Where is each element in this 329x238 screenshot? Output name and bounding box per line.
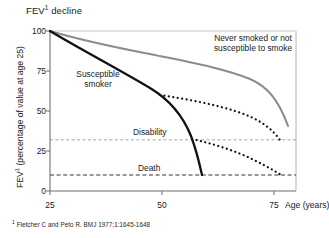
susceptible-smoker-label: Susceptible smoker bbox=[62, 69, 134, 90]
susceptible-smoker-label-line1: Susceptible bbox=[62, 69, 134, 79]
never-smoked-label-line1: Never smoked or not bbox=[194, 33, 312, 43]
disability-label: Disability bbox=[133, 127, 167, 137]
death-label: Death bbox=[138, 163, 160, 173]
series-quit-branch-upper bbox=[160, 95, 280, 140]
footnote: 1 Fletcher C and Peto R. BMJ 1977;1:1645… bbox=[12, 221, 150, 228]
footnote-marker: 1 bbox=[12, 219, 15, 225]
series-quit-branch-lower bbox=[192, 139, 281, 175]
never-smoked-label-line2: susceptible to smoke bbox=[194, 43, 312, 53]
series-susceptible-smoker-curve bbox=[50, 31, 202, 175]
never-smoked-label: Never smoked or not susceptible to smoke bbox=[194, 33, 312, 54]
footnote-text: Fletcher C and Peto R. BMJ 1977;1:1645-1… bbox=[17, 221, 150, 228]
susceptible-smoker-label-line2: smoker bbox=[62, 79, 134, 89]
